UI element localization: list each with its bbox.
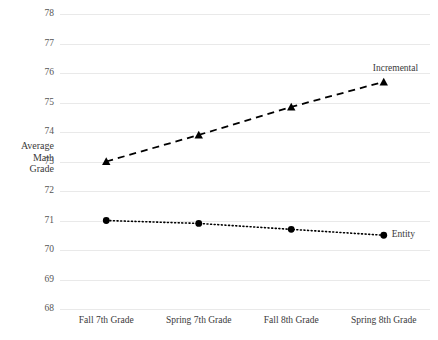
data-point-marker xyxy=(380,232,387,239)
data-point-marker xyxy=(288,226,295,233)
data-layer xyxy=(0,0,438,340)
data-point-marker xyxy=(380,78,388,86)
series-label-entity: Entity xyxy=(392,229,415,239)
chart-container: AverageMathGrade 7877767574737271706968 … xyxy=(0,0,438,340)
data-point-marker xyxy=(195,220,202,227)
data-point-marker xyxy=(103,217,110,224)
series-line xyxy=(106,82,384,162)
series-label-incremental: Incremental xyxy=(373,63,418,73)
series-line xyxy=(106,221,384,236)
